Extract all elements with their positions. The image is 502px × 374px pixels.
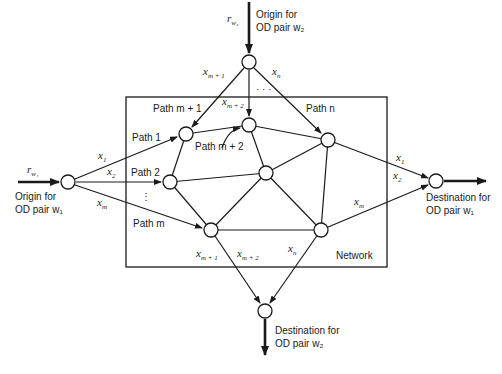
path-2-label: Path 2 (131, 167, 160, 178)
edge-n3-dest-w1 (328, 140, 428, 178)
edge-n5-n6 (211, 173, 266, 230)
origin-w2-flow-label: rw₂ (227, 12, 239, 27)
flow-xm-right: xm (353, 195, 364, 210)
node-destination-w2 (258, 304, 272, 318)
origin-w2-label-1: Origin for (256, 9, 298, 20)
flow-x1-right: x1 (395, 151, 404, 166)
origin-w1-flow-label: rw₁ (27, 163, 38, 178)
node-destination-w1 (429, 174, 443, 188)
flow-xm1-bottom: xm + 1 (195, 247, 218, 262)
edge-n2-n3 (249, 125, 328, 140)
flow-x2-left: x2 (106, 165, 116, 180)
path-n-label: Path n (306, 103, 335, 114)
origin-w1-label-2: OD pair w₁ (15, 204, 63, 215)
node-n5 (259, 166, 273, 180)
destination-w1-label-2: OD pair w₁ (426, 205, 474, 216)
destination-w1-label-1: Destination for (426, 192, 491, 203)
network-label: Network (336, 250, 374, 261)
node-n2 (242, 118, 256, 132)
destination-w2-label-1: Destination for (275, 325, 340, 336)
edge-n7-dest-w1 (321, 185, 428, 230)
path-m1-label: Path m + 1 (153, 103, 202, 114)
flow-xn-top: xn (271, 65, 281, 80)
node-n6 (204, 223, 218, 237)
vertical-ellipsis-left: ⋮ (141, 191, 151, 202)
node-n7 (314, 223, 328, 237)
edge-n3-n7 (321, 140, 328, 230)
edge-n4-n6 (170, 182, 211, 230)
flow-xn-bottom: xn (287, 242, 297, 257)
node-origin-w2 (242, 55, 256, 69)
flow-xm1-top: xm + 1 (202, 65, 225, 80)
destination-w2-label-2: OD pair w₂ (275, 338, 323, 349)
origin-w2-label-2: OD pair w₂ (256, 22, 304, 33)
flow-x2-right: x2 (392, 169, 402, 184)
ellipsis-top: · · · (256, 84, 272, 95)
origin-w1-label-1: Origin for (15, 191, 57, 202)
edge-n1-n2 (186, 125, 249, 134)
node-origin-w1 (61, 175, 75, 189)
network-flow-diagram: rw₂ Origin for OD pair w₂ rw₁ Origin for… (0, 0, 502, 374)
edge-n5-n7 (266, 173, 321, 230)
node-n4 (163, 175, 177, 189)
edge-n4-n5 (170, 173, 266, 182)
path-1-label: Path 1 (132, 132, 161, 143)
edge-n3-n5 (266, 140, 328, 173)
flow-xm-left: xm (96, 196, 107, 211)
flow-xm2-bottom: xm + 2 (236, 247, 259, 262)
path-m2-label: Path m + 2 (195, 141, 244, 152)
node-n1 (179, 127, 193, 141)
flow-x1-left: x1 (97, 149, 106, 164)
node-n3 (321, 133, 335, 147)
edge-path-n (254, 68, 321, 133)
path-m-label: Path m (133, 218, 165, 229)
